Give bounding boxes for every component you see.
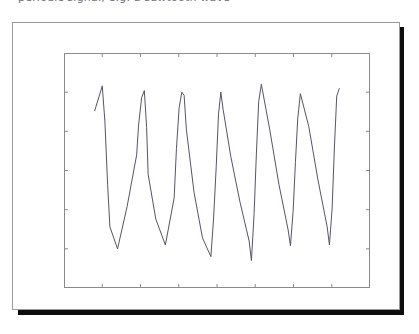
clipped-top-text: periodic signal, e.g. a sawtooth wave [18,0,230,4]
plot-area: -4-3-2-101234-1.5-1.0-0.50.00.51.01.5 [64,53,370,288]
line-chart: -4-3-2-101234-1.5-1.0-0.50.00.51.01.5 [64,53,370,288]
series-line [95,84,340,260]
clipped-top-text-line: periodic signal, e.g. a sawtooth wave [0,0,419,9]
figure-card: -4-3-2-101234-1.5-1.0-0.50.00.51.01.5 [12,22,400,310]
axes-spines [65,54,370,288]
